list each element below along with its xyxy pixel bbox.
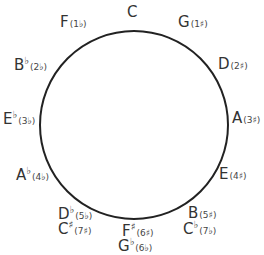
sharp-icon: ♯ bbox=[68, 219, 73, 230]
accidental-count: (1♯) bbox=[191, 19, 208, 29]
key-label-cb: C♭(7♭) bbox=[183, 220, 216, 237]
key-note: C bbox=[183, 220, 193, 238]
key-note: B bbox=[14, 56, 24, 74]
key-label-ab: A♭(4♭) bbox=[16, 166, 49, 183]
key-label-gb: G♭(6♭) bbox=[118, 237, 152, 254]
flat-icon: ♭ bbox=[193, 219, 198, 230]
accidental-count: (1♭) bbox=[70, 19, 87, 29]
key-label-g: G(1♯) bbox=[178, 14, 208, 30]
key-note: C bbox=[58, 220, 68, 238]
flat-icon: ♭ bbox=[24, 55, 29, 66]
key-label-d: D(2♯) bbox=[218, 56, 248, 72]
key-label-eb: E♭(3♭) bbox=[3, 110, 35, 127]
key-label-a: A(3♯) bbox=[232, 110, 260, 126]
flat-icon: ♭ bbox=[70, 204, 75, 215]
accidental-count: (4♭) bbox=[32, 172, 49, 182]
key-note: D bbox=[218, 55, 230, 73]
circle-of-fifths-ring bbox=[0, 0, 264, 255]
flat-icon: ♭ bbox=[12, 109, 17, 120]
key-note: G bbox=[178, 13, 190, 31]
accidental-count: (6♭) bbox=[135, 243, 152, 253]
flat-icon: ♭ bbox=[130, 236, 135, 247]
key-note: A bbox=[232, 109, 242, 127]
flat-icon: ♭ bbox=[26, 165, 31, 176]
accidental-count: (7♭) bbox=[199, 226, 216, 236]
key-note: A bbox=[16, 166, 26, 184]
key-note: F bbox=[60, 13, 69, 31]
key-label-bb: B♭(2♭) bbox=[14, 56, 47, 73]
key-note: C bbox=[127, 3, 137, 21]
accidental-count: (5♯) bbox=[199, 210, 216, 220]
key-label-e: E(4♯) bbox=[219, 166, 247, 182]
accidental-count: (3♯) bbox=[243, 115, 260, 125]
key-label-f: F(1♭) bbox=[60, 14, 87, 30]
sharp-icon: ♯ bbox=[131, 221, 136, 232]
accidental-count: (4♯) bbox=[229, 171, 246, 181]
key-label-cs: C♯(7♯) bbox=[58, 220, 91, 237]
accidental-count: (7♯) bbox=[74, 226, 91, 236]
accidental-count: (2♯) bbox=[231, 61, 248, 71]
accidental-count: (2♭) bbox=[30, 62, 47, 72]
key-label-c: C bbox=[127, 4, 137, 20]
key-note: E bbox=[219, 165, 228, 183]
key-note: G bbox=[118, 237, 130, 255]
accidental-count: (3♭) bbox=[18, 116, 35, 126]
